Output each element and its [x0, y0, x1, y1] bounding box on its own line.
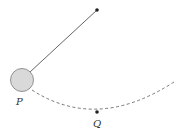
- pendulum-diagram: P Q: [0, 0, 184, 135]
- point-q: [95, 110, 99, 114]
- pendulum-string: [30, 10, 97, 72]
- label-p: P: [15, 96, 23, 107]
- pivot-point: [95, 8, 99, 12]
- swing-path-dashed: [32, 82, 174, 109]
- label-q: Q: [93, 118, 101, 129]
- pendulum-bob: [11, 69, 34, 92]
